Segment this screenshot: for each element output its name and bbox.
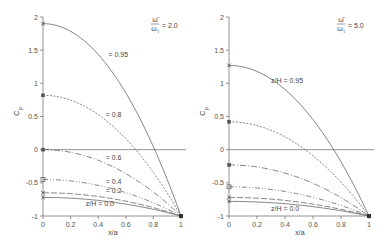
data-marker (227, 163, 231, 167)
series-label: = 0.95 (108, 51, 128, 58)
x-tick-label: 1 (179, 221, 183, 228)
svg-text:C: C (199, 111, 206, 116)
left-panel-omega-2: -1-0.500.511.5200.20.40.60.81x/aCpω̄ωt= … (13, 14, 186, 237)
series-label: = 0.6 (106, 154, 122, 161)
data-marker (41, 93, 45, 97)
x-tick-label: 0.8 (336, 221, 346, 228)
series-label: z/H = 0.0 (86, 200, 114, 207)
series-curve-095 (229, 65, 369, 216)
y-tick-label: 0 (34, 146, 38, 153)
data-marker (41, 148, 45, 152)
x-tick-label: 0.2 (66, 221, 76, 228)
y-tick-label: 2 (34, 14, 38, 21)
convergence-point-marker (367, 214, 371, 218)
y-axis-label: Cp (13, 107, 23, 116)
data-marker (227, 120, 231, 124)
svg-text:C: C (13, 111, 20, 116)
omega-ratio-annotation: ω̄ωt= 5.0 (337, 16, 364, 34)
x-tick-label: 0 (41, 221, 45, 228)
svg-text:ω: ω (151, 25, 157, 32)
x-tick-label: 0.6 (121, 221, 131, 228)
y-tick-label: 0 (220, 146, 224, 153)
series-label: = 0.4 (106, 178, 122, 185)
svg-text:ω: ω (337, 25, 343, 32)
x-tick-label: 0.6 (308, 221, 318, 228)
cp-distribution-figure: -1-0.500.511.5200.20.40.60.81x/aCpω̄ωt= … (0, 0, 385, 244)
svg-text:ω̄: ω̄ (338, 16, 344, 23)
y-tick-label: 1 (34, 80, 38, 87)
y-tick-label: 0.5 (28, 113, 38, 120)
x-tick-label: 0.2 (252, 221, 262, 228)
y-tick-label: 1 (220, 80, 224, 87)
y-tick-label: 1.5 (214, 47, 224, 54)
series-label: z/H = 0.95 (271, 77, 303, 84)
series-label: = 0.8 (106, 111, 122, 118)
y-tick-label: -1 (32, 213, 38, 220)
svg-text:p: p (17, 107, 23, 110)
y-tick-label: 0.5 (214, 113, 224, 120)
convergence-point-marker (179, 214, 183, 218)
x-tick-label: 0.4 (280, 221, 290, 228)
y-tick-label: 2 (220, 14, 224, 21)
svg-text:= 2.0: = 2.0 (162, 22, 178, 29)
y-tick-label: 1.5 (28, 47, 38, 54)
y-axis-label: Cp (199, 107, 209, 116)
svg-text:t: t (344, 29, 346, 34)
svg-text:p: p (203, 107, 209, 110)
y-tick-label: -0.5 (26, 179, 38, 186)
y-tick-label: -0.5 (212, 179, 224, 186)
omega-ratio-annotation: ω̄ωt= 2.0 (151, 16, 178, 34)
right-panel-omega-5: -1-0.500.511.5200.20.40.60.81x/aCpω̄ωt= … (199, 14, 374, 237)
x-tick-label: 1 (367, 221, 371, 228)
x-axis-label: x/a (108, 229, 117, 236)
series-label: z/H = 0.0 (271, 205, 299, 212)
svg-text:t: t (158, 29, 160, 34)
x-axis-label: x/a (295, 229, 304, 236)
y-tick-label: -1 (218, 213, 224, 220)
svg-text:ω̄: ω̄ (152, 16, 158, 23)
series-label: = 0.2 (106, 187, 122, 194)
x-tick-label: 0.8 (149, 221, 159, 228)
x-tick-label: 0.4 (93, 221, 103, 228)
svg-text:= 5.0: = 5.0 (348, 22, 364, 29)
x-tick-label: 0 (227, 221, 231, 228)
